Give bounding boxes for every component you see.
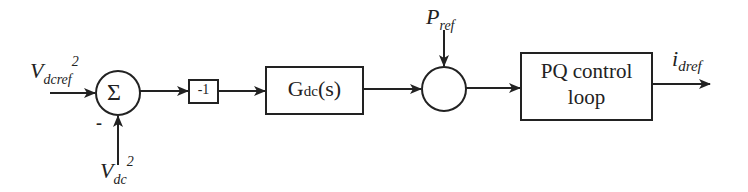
gain-label: -1 bbox=[189, 82, 218, 98]
vdc-sup: 2 bbox=[127, 154, 134, 169]
pref-label: Pref bbox=[426, 4, 455, 30]
pq-label: PQ control loop bbox=[521, 58, 652, 110]
vdc-label: Vdc2 bbox=[100, 158, 134, 184]
idref-label: idref bbox=[672, 46, 702, 72]
gdc-sub: dc bbox=[304, 83, 318, 99]
sigma-symbol: Σ bbox=[107, 79, 121, 106]
minus-sign: - bbox=[96, 113, 102, 134]
idref-sub: dref bbox=[678, 58, 702, 74]
vdcref-label: Vdcref2 bbox=[30, 58, 79, 84]
vdcref-main: V bbox=[30, 58, 43, 83]
pq-label-line1: PQ control bbox=[521, 58, 652, 84]
gdc-main: G bbox=[288, 76, 304, 101]
vdcref-sub: dcref bbox=[43, 72, 71, 87]
pq-label-line2: loop bbox=[521, 84, 652, 110]
gdc-label: Gdc(s) bbox=[266, 76, 363, 102]
pref-main: P bbox=[426, 4, 439, 29]
pref-junction bbox=[422, 67, 466, 111]
vdc-sub: dc bbox=[113, 172, 126, 187]
pref-sub: ref bbox=[439, 18, 454, 33]
vdcref-sup: 2 bbox=[72, 54, 79, 69]
vdc-main: V bbox=[100, 158, 113, 183]
gdc-tail: (s) bbox=[318, 76, 341, 101]
